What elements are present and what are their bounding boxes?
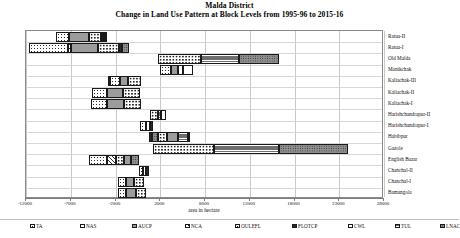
bar-row[interactable] xyxy=(26,177,382,187)
bar-segment-tul[interactable] xyxy=(214,144,278,154)
category-label: Harishchandrapur-II xyxy=(388,111,430,117)
category-label: Chanchal-I xyxy=(388,178,411,184)
bar-row[interactable] xyxy=(26,43,382,53)
category-label: Chanchal-II xyxy=(388,167,413,173)
bar-segment-lnac[interactable] xyxy=(279,144,348,154)
bar-row[interactable] xyxy=(26,88,382,98)
bar-segment-oulefl[interactable] xyxy=(124,99,141,109)
bar-row[interactable] xyxy=(26,76,382,86)
bar-segment-aucp[interactable] xyxy=(71,43,98,53)
bar-segment-oulefl[interactable] xyxy=(134,177,144,187)
bar-segment-ta[interactable] xyxy=(92,88,107,98)
legend-swatch-icon xyxy=(348,224,353,229)
legend-label: NAS xyxy=(86,223,96,229)
x-tick-mark xyxy=(383,198,384,201)
bar-segment-ta[interactable] xyxy=(91,99,106,109)
bar-row[interactable] xyxy=(26,166,382,176)
bar-segment-ta[interactable] xyxy=(118,188,126,198)
legend-item-flotcp[interactable]: FLOTCP xyxy=(292,223,317,229)
bar-segment-flotcp[interactable] xyxy=(146,166,149,176)
bar-segment-aucp[interactable] xyxy=(120,76,129,86)
legend-item-nas[interactable]: NAS xyxy=(80,223,96,229)
legend-item-lnac[interactable]: LNAC xyxy=(440,223,460,229)
legend-item-nca[interactable]: NCA xyxy=(185,223,202,229)
bar-segment-nca[interactable] xyxy=(107,155,116,165)
chart-subtitle: Change in Land Use Pattern at Block Leve… xyxy=(0,10,459,19)
bar-row[interactable] xyxy=(26,65,382,75)
bar-row[interactable] xyxy=(26,99,382,109)
chart-title-block: Malda District Change in Land Use Patter… xyxy=(0,1,459,19)
x-tick-label: 28000 xyxy=(377,200,390,207)
bar-segment-oulefl[interactable] xyxy=(136,188,146,198)
bar-row[interactable] xyxy=(26,110,382,120)
bar-segment-ta[interactable] xyxy=(29,43,68,53)
bar-segment-nas[interactable] xyxy=(183,65,194,75)
x-tick-mark xyxy=(159,198,160,201)
bar-segment-aucp[interactable] xyxy=(107,99,124,109)
bar-segment-ta[interactable] xyxy=(110,76,120,86)
bar-segment-flotcp[interactable] xyxy=(150,121,153,131)
legend-item-tul[interactable]: TUL xyxy=(395,223,411,229)
chart-legend: TANASAUCPNCAOULEFLFLOTCPCWLTULLNAC xyxy=(0,219,459,237)
x-tick-label: -7000 xyxy=(64,200,76,207)
bar-segment-lnac[interactable] xyxy=(131,155,139,165)
category-label: Bamangola xyxy=(388,189,412,195)
bar-segment-lnac[interactable] xyxy=(239,54,278,64)
bar-row[interactable] xyxy=(26,32,382,42)
bar-segment-tul[interactable] xyxy=(178,132,188,142)
plot-area xyxy=(25,30,383,198)
bar-segment-aucp[interactable] xyxy=(171,65,178,75)
bar-segment-aucp[interactable] xyxy=(167,132,179,142)
x-tick-mark xyxy=(25,198,26,201)
bar-segment-oulefl[interactable] xyxy=(158,54,201,64)
legend-swatch-icon xyxy=(185,224,190,229)
legend-item-oulefl[interactable]: OULEFL xyxy=(235,223,261,229)
bar-segment-oulefl[interactable] xyxy=(158,132,166,142)
gridline-vertical xyxy=(384,31,385,197)
legend-label: CWL xyxy=(354,223,366,229)
legend-swatch-icon xyxy=(132,224,137,229)
legend-swatch-icon xyxy=(30,224,35,229)
bar-segment-lnac[interactable] xyxy=(122,43,129,53)
bar-row[interactable] xyxy=(26,188,382,198)
x-tick-label: 23000 xyxy=(332,200,345,207)
bar-row[interactable] xyxy=(26,132,382,142)
bar-segment-tul[interactable] xyxy=(201,54,239,64)
x-tick-label: -2000 xyxy=(109,200,121,207)
legend-item-cwl[interactable]: CWL xyxy=(348,223,366,229)
bar-segment-tul[interactable] xyxy=(105,32,107,42)
bars-layer xyxy=(26,31,382,197)
bar-segment-oulefl[interactable] xyxy=(89,32,102,42)
legend-label: OULEFL xyxy=(241,223,261,229)
legend-item-aucp[interactable]: AUCP xyxy=(132,223,152,229)
bar-row[interactable] xyxy=(26,144,382,154)
bar-segment-oulefl[interactable] xyxy=(116,155,124,165)
bar-segment-oulefl[interactable] xyxy=(123,88,140,98)
x-tick-label: -12000 xyxy=(18,200,32,207)
x-tick-label: 8000 xyxy=(199,200,209,207)
bar-segment-oulefl[interactable] xyxy=(150,110,158,120)
bar-segment-ta[interactable] xyxy=(89,155,108,165)
legend-label: FLOTCP xyxy=(298,223,317,229)
legend-swatch-icon xyxy=(292,224,297,229)
bar-segment-ta[interactable] xyxy=(56,32,69,42)
bar-segment-nca[interactable] xyxy=(188,132,190,142)
bar-row[interactable] xyxy=(26,155,382,165)
bar-segment-aucp[interactable] xyxy=(126,188,136,198)
bar-segment-oulefl[interactable] xyxy=(98,43,119,53)
legend-item-ta[interactable]: TA xyxy=(30,223,43,229)
category-label: Kaliachak-I xyxy=(388,100,412,106)
bar-row[interactable] xyxy=(26,121,382,131)
bar-segment-oulefl[interactable] xyxy=(153,144,215,154)
bar-segment-aucp[interactable] xyxy=(107,88,122,98)
bar-segment-ta[interactable] xyxy=(160,65,171,75)
bar-segment-ta[interactable] xyxy=(118,177,126,187)
bar-row[interactable] xyxy=(26,54,382,64)
category-label: Old Malda xyxy=(388,55,410,61)
category-label: Kaliachak-III xyxy=(388,77,416,83)
bar-segment-oulefl[interactable] xyxy=(128,76,140,86)
bar-segment-aucp[interactable] xyxy=(126,177,134,187)
bar-segment-cwl[interactable] xyxy=(161,110,165,120)
bar-segment-aucp[interactable] xyxy=(69,32,88,42)
